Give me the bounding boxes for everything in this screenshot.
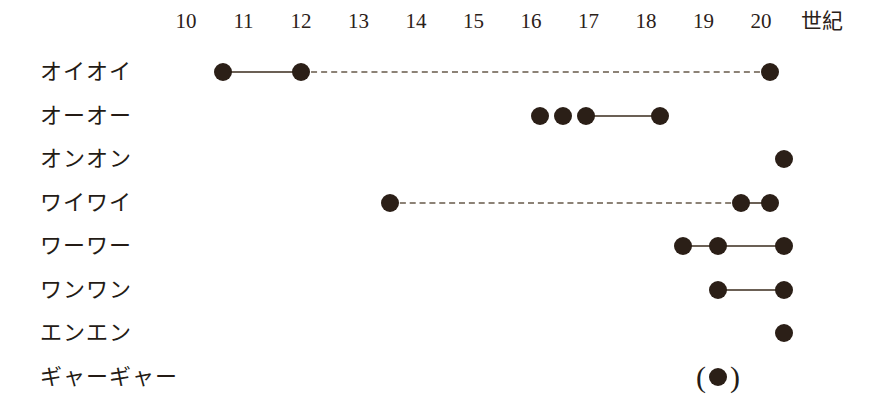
data-point-dot (732, 194, 750, 212)
connector-dashed (301, 71, 770, 73)
paren-right: ) (730, 362, 740, 392)
axis-unit-label: 世紀 (801, 10, 843, 32)
century-axis: 1011121314151617181920世紀 (0, 0, 869, 40)
table-row: オーオー (0, 94, 869, 138)
axis-tick-17: 17 (578, 10, 599, 32)
row-plot-area (0, 137, 869, 181)
axis-tick-14: 14 (406, 10, 427, 32)
data-point-dot (554, 107, 572, 125)
row-plot-area (0, 50, 869, 94)
data-point-dot (761, 194, 779, 212)
table-row: オンオン (0, 137, 869, 181)
connector-solid (223, 71, 301, 73)
table-row: オイオイ (0, 50, 869, 94)
axis-tick-10: 10 (176, 10, 197, 32)
data-point-dot (761, 63, 779, 81)
data-point-dot (292, 63, 310, 81)
table-row: ワンワン (0, 268, 869, 312)
axis-tick-11: 11 (233, 10, 253, 32)
data-point-dot (531, 107, 549, 125)
data-point-dot (651, 107, 669, 125)
data-point-dot (577, 107, 595, 125)
row-plot-area (0, 311, 869, 355)
row-plot-area: () (0, 355, 869, 399)
row-plot-area (0, 268, 869, 312)
table-row: ワイワイ (0, 181, 869, 225)
paren-left: ( (696, 362, 706, 392)
data-point-dot (381, 194, 399, 212)
axis-tick-13: 13 (348, 10, 369, 32)
data-point-dot (214, 63, 232, 81)
axis-tick-12: 12 (291, 10, 312, 32)
data-point-dot-uncertain (709, 368, 727, 386)
table-row: エンエン (0, 311, 869, 355)
table-row: ワーワー (0, 224, 869, 268)
data-point-dot (775, 324, 793, 342)
axis-tick-20: 20 (751, 10, 772, 32)
axis-tick-19: 19 (693, 10, 714, 32)
data-point-dot (709, 281, 727, 299)
data-point-dot (674, 237, 692, 255)
axis-tick-16: 16 (521, 10, 542, 32)
data-point-dot (775, 237, 793, 255)
data-point-dot (775, 281, 793, 299)
table-row: ギャーギャー() (0, 355, 869, 399)
data-point-dot (775, 150, 793, 168)
axis-tick-18: 18 (636, 10, 657, 32)
axis-tick-15: 15 (463, 10, 484, 32)
century-attestation-chart: 1011121314151617181920世紀 オイオイオーオーオンオンワイワ… (0, 0, 869, 417)
data-point-dot (709, 237, 727, 255)
row-plot-area (0, 181, 869, 225)
row-plot-area (0, 224, 869, 268)
row-plot-area (0, 94, 869, 138)
connector-dashed (390, 202, 741, 204)
connector-solid (586, 115, 661, 117)
